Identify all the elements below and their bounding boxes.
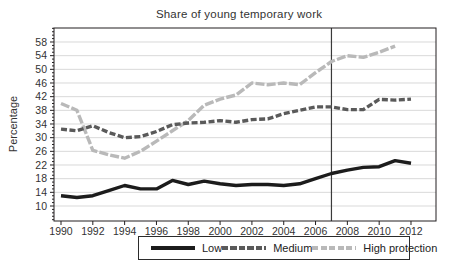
svg-text:38: 38 (35, 104, 47, 116)
legend-item-medium: Medium (222, 242, 312, 254)
high-protection-line-sample-icon (312, 246, 356, 250)
plot-area: 1014182226303438424650545819901992199419… (0, 0, 458, 275)
legend-item-low: Low (151, 242, 222, 254)
svg-text:1990: 1990 (49, 225, 73, 237)
low-line-sample-icon (151, 246, 195, 250)
svg-text:1992: 1992 (81, 225, 105, 237)
svg-text:30: 30 (35, 131, 47, 143)
svg-text:50: 50 (35, 63, 47, 75)
legend-item-high-protection: High protection (312, 242, 437, 254)
svg-text:18: 18 (35, 172, 47, 184)
svg-text:1994: 1994 (113, 225, 137, 237)
medium-line-sample-icon (222, 246, 266, 250)
svg-text:14: 14 (35, 186, 47, 198)
chart-container: Share of young temporary work Percentage… (0, 0, 458, 275)
legend-label-high-protection: High protection (363, 242, 437, 254)
legend-label-low: Low (202, 242, 222, 254)
legend: Low Medium High protection (138, 236, 410, 260)
svg-text:22: 22 (35, 159, 47, 171)
svg-text:26: 26 (35, 145, 47, 157)
svg-text:58: 58 (35, 36, 47, 48)
svg-text:46: 46 (35, 77, 47, 89)
svg-text:10: 10 (35, 200, 47, 212)
svg-text:54: 54 (35, 49, 47, 61)
legend-label-medium: Medium (273, 242, 312, 254)
svg-text:42: 42 (35, 90, 47, 102)
svg-text:34: 34 (35, 118, 47, 130)
